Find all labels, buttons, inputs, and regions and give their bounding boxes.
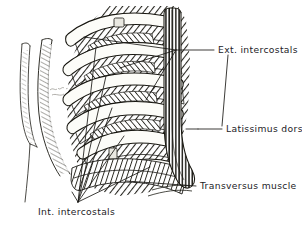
label-transversus-muscle: Transversus muscle bbox=[199, 180, 297, 191]
anatomy-illustration: Ext. intercostals Latissimus dorsi Trans… bbox=[0, 0, 302, 228]
label-latissimus-dorsi: Latissimus dorsi bbox=[226, 123, 302, 134]
thoracic-wall-mass bbox=[60, 0, 200, 200]
anatomical-figure: Ext. intercostals Latissimus dorsi Trans… bbox=[0, 0, 302, 228]
label-int-intercostals: Int. intercostals bbox=[38, 206, 115, 217]
label-ext-intercostals: Ext. intercostals bbox=[218, 44, 298, 55]
